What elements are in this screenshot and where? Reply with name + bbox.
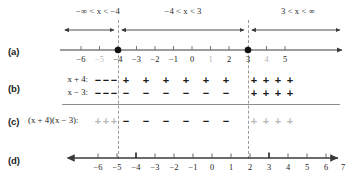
sign-glyph: + (275, 116, 281, 127)
tick-label-d-neg1: −1 (189, 163, 198, 172)
tick-label-a-3: 3 (246, 55, 250, 64)
sign-glyph: − (103, 88, 109, 99)
sign-glyph: − (143, 116, 149, 127)
tick-label-d-6: 6 (324, 163, 328, 172)
tick-label-a-neg1: −1 (169, 55, 178, 64)
sign-glyph: − (203, 116, 209, 127)
tick-label-d-neg3: −3 (151, 163, 160, 172)
sign-glyph: + (103, 116, 109, 127)
sign-glyph: + (275, 88, 281, 99)
sign-chart-figure: −∞ < x < −4 −4 < x < 3 3 < x < ∞ (a) (0, 0, 354, 179)
tick-label-d-neg2: −2 (170, 163, 179, 172)
sign-glyph: + (251, 116, 257, 127)
sign-glyph: + (287, 88, 293, 99)
tick-label-d-0: 0 (210, 163, 214, 172)
tick-label-d-3: 3 (267, 163, 271, 172)
sign-glyph: + (263, 75, 269, 86)
sign-glyph: + (287, 116, 293, 127)
tick-label-a-5: 5 (283, 55, 287, 64)
sign-glyph: − (183, 116, 189, 127)
tick-label-a-neg6: −6 (77, 55, 86, 64)
tick-label-d-2: 2 (248, 163, 252, 172)
row-a-tick-labels: −6 −5 −4 −3 −2 −1 0 1 2 3 4 5 (0, 55, 354, 67)
tick-label-d-neg6: −6 (94, 163, 103, 172)
sign-glyph: − (111, 88, 117, 99)
sign-glyph: + (251, 75, 257, 86)
tick-label-a-4: 4 (264, 55, 268, 64)
sign-glyph: − (163, 88, 169, 99)
sign-glyph: + (95, 116, 101, 127)
sign-glyph: + (203, 75, 209, 86)
tick-label-d-1: 1 (229, 163, 233, 172)
row-d-tick-labels: −6 −5 −4 −3 −2 −1 0 1 2 3 4 5 6 7 (0, 163, 354, 175)
sign-glyph: − (163, 116, 169, 127)
sign-row-x-plus-4: − − − + + + + + + + + + + (0, 74, 354, 86)
sign-glyph: − (123, 116, 129, 127)
interval-label-right: 3 < x < ∞ (252, 6, 344, 16)
sign-glyph: + (111, 116, 117, 127)
sign-glyph: + (123, 75, 129, 86)
tick-label-a-neg4: −4 (114, 55, 123, 64)
sign-glyph: − (183, 88, 189, 99)
tick-label-a-neg3: −3 (132, 55, 141, 64)
sign-glyph: + (263, 88, 269, 99)
sign-glyph: − (223, 116, 229, 127)
sign-glyph: + (163, 75, 169, 86)
sign-glyph: + (183, 75, 189, 86)
sign-glyph: − (111, 75, 117, 86)
sign-glyph: + (263, 116, 269, 127)
tick-label-a-2: 2 (227, 55, 231, 64)
tick-label-a-1: 1 (208, 55, 212, 64)
tick-label-d-5: 5 (305, 163, 309, 172)
sign-glyph: + (223, 75, 229, 86)
sign-glyph: + (275, 75, 281, 86)
interval-label-middle: −4 < x < 3 (130, 6, 236, 16)
sign-glyph: + (251, 88, 257, 99)
section-separator-rule (62, 104, 340, 105)
sign-glyph: + (143, 75, 149, 86)
tick-label-d-neg4: −4 (132, 163, 141, 172)
sign-glyph: − (143, 88, 149, 99)
tick-label-a-neg2: −2 (151, 55, 160, 64)
sign-glyph: − (95, 88, 101, 99)
sign-glyph: + (287, 75, 293, 86)
tick-label-d-4: 4 (286, 163, 290, 172)
sign-glyph: − (95, 75, 101, 86)
sign-glyph: − (103, 75, 109, 86)
sign-glyph: − (223, 88, 229, 99)
tick-label-d-neg5: −5 (113, 163, 122, 172)
row-a-interval-arrows (0, 22, 354, 38)
sign-glyph: − (123, 88, 129, 99)
tick-label-d-7: 7 (341, 163, 345, 172)
tick-label-a-0: 0 (190, 55, 194, 64)
sign-row-product: + + + − − − − − − + + + + (0, 115, 354, 127)
sign-row-x-minus-3: − − − − − − − − − + + + + (0, 87, 354, 99)
tick-label-a-neg5: −5 (95, 55, 104, 64)
sign-glyph: − (203, 88, 209, 99)
